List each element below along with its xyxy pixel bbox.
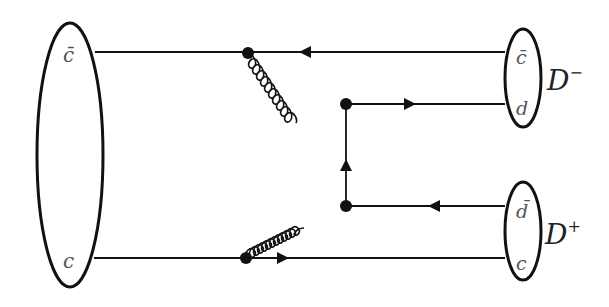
- arrow-right-icon: [404, 98, 416, 110]
- feynman-diagram: c̄ c c̄ d D− d̄ c D+: [0, 0, 609, 307]
- vertex-lower-right: [340, 200, 352, 212]
- d-minus-quark-bottom-label: d: [516, 97, 528, 119]
- initial-quark-top-label: c̄: [63, 43, 74, 67]
- d-minus-quark-top-label: c̄: [516, 46, 527, 68]
- arrow-left-icon: [299, 46, 311, 58]
- d-plus-quark-top-label: d̄: [516, 199, 530, 222]
- vertex-top-left: [242, 47, 254, 59]
- arrow-left-icon: [428, 200, 440, 212]
- lower-gluon: [246, 227, 304, 258]
- vertex-bottom-left: [240, 252, 252, 264]
- d-minus-label: D−: [546, 63, 583, 97]
- arrow-up-icon: [340, 159, 352, 171]
- vertex-upper-right: [340, 98, 352, 110]
- d-plus-quark-bottom-label: c: [516, 252, 527, 274]
- arrow-right-icon: [277, 252, 289, 264]
- d-plus-label: D+: [544, 217, 581, 251]
- upper-gluon: [248, 53, 297, 123]
- initial-quark-bottom-label: c: [63, 249, 74, 273]
